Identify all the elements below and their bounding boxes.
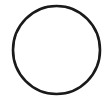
drawing-canvas [0,0,110,103]
canvas-background [0,0,110,103]
circle-drawing-svg [0,0,110,103]
